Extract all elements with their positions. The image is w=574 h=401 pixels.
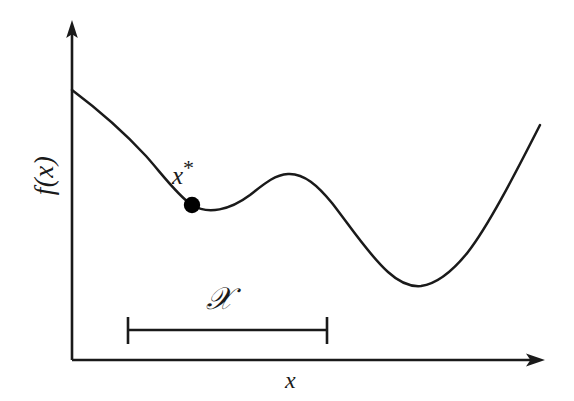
optimum-marker-dot [184, 197, 200, 213]
y-axis-label: f(x) [31, 148, 58, 204]
diagram-svg [0, 0, 574, 401]
function-curve [72, 90, 540, 286]
optimum-label-superscript-asterisk: * [183, 155, 194, 180]
feasible-set-label: 𝒳 [206, 283, 233, 314]
figure-canvas: f(x) x x* 𝒳 [0, 0, 574, 401]
optimum-label-base: x [172, 162, 183, 189]
optimum-point-label: x* [172, 157, 194, 188]
x-axis-label: x [285, 368, 296, 392]
